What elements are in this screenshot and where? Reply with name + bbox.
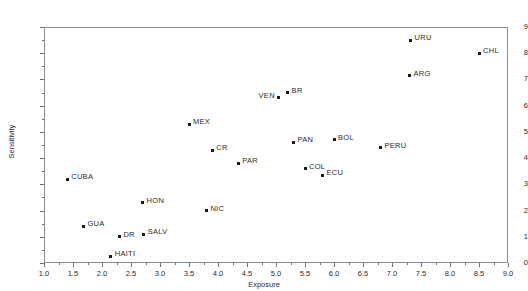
point-label: COL xyxy=(309,162,325,171)
point-label: HON xyxy=(147,196,165,205)
point-label: VEN xyxy=(259,91,275,100)
point-label: NIC xyxy=(210,204,224,213)
point-label: BR xyxy=(292,86,303,95)
point-marker xyxy=(321,174,324,177)
point-marker xyxy=(237,162,240,165)
point-label: BOL xyxy=(338,133,354,142)
point-marker xyxy=(408,74,411,77)
point-marker xyxy=(118,235,121,238)
point-marker xyxy=(109,255,112,258)
point-marker xyxy=(188,123,191,126)
point-marker xyxy=(141,201,144,204)
point-marker xyxy=(333,138,336,141)
point-marker xyxy=(142,233,145,236)
data-points-layer: CUBAGUAHAITIDRHONSALVMEXNICCRPARVENBRPAN… xyxy=(0,0,528,291)
point-label: HAITI xyxy=(115,249,136,258)
point-label: GUA xyxy=(87,219,104,228)
scatter-plot-screenshot: 01234567891.01.52.02.53.03.54.04.55.05.5… xyxy=(0,0,528,291)
point-label: MEX xyxy=(193,117,210,126)
point-marker xyxy=(478,52,481,55)
point-label: CHL xyxy=(483,46,499,55)
point-marker xyxy=(286,91,289,94)
point-marker xyxy=(379,146,382,149)
point-label: PAR xyxy=(242,156,258,165)
point-label: SALV xyxy=(148,227,168,236)
point-marker xyxy=(292,141,295,144)
point-marker xyxy=(277,96,280,99)
y-axis-title: Sensitivity xyxy=(7,107,16,177)
point-marker xyxy=(409,39,412,42)
point-label: PAN xyxy=(297,135,313,144)
point-marker xyxy=(304,167,307,170)
point-label: URU xyxy=(415,33,432,42)
point-marker xyxy=(211,149,214,152)
point-marker xyxy=(66,178,69,181)
point-label: ARG xyxy=(413,69,430,78)
point-marker xyxy=(205,209,208,212)
x-axis-title: Exposure xyxy=(0,280,528,289)
point-label: PERU xyxy=(384,141,406,150)
point-label: ECU xyxy=(326,168,343,177)
point-label: DR xyxy=(123,230,134,239)
point-label: CR xyxy=(216,143,227,152)
point-marker xyxy=(82,225,85,228)
point-label: CUBA xyxy=(71,172,93,181)
